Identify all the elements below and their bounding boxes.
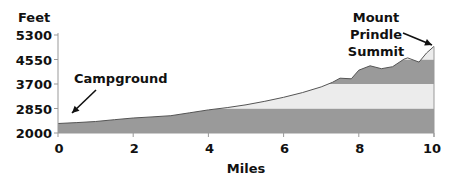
x-tick-label: 10	[423, 141, 441, 156]
summit-label-line1: Mount	[353, 10, 400, 25]
summit-label-line2: Prindle	[350, 27, 402, 42]
y-tick-label: 4550	[16, 53, 52, 68]
x-tick-label: 6	[280, 141, 289, 156]
elevation-band	[58, 109, 434, 134]
x-tick-label: 2	[130, 141, 139, 156]
x-tick-label: 4	[205, 141, 214, 156]
x-tick-label: 8	[355, 141, 364, 156]
y-tick-label: 2000	[16, 126, 52, 141]
elevation-chart: 200028503700455053000246810 Feet Miles C…	[0, 0, 476, 178]
x-axis-title: Miles	[227, 161, 266, 176]
summit-label-line3: Summit	[348, 44, 404, 59]
y-tick-label: 5300	[16, 28, 52, 43]
x-tick-label: 0	[54, 141, 63, 156]
y-axis-title: Feet	[18, 10, 50, 25]
y-tick-label: 3700	[16, 77, 52, 92]
y-tick-label: 2850	[16, 102, 52, 117]
campground-label: Campground	[74, 71, 168, 86]
